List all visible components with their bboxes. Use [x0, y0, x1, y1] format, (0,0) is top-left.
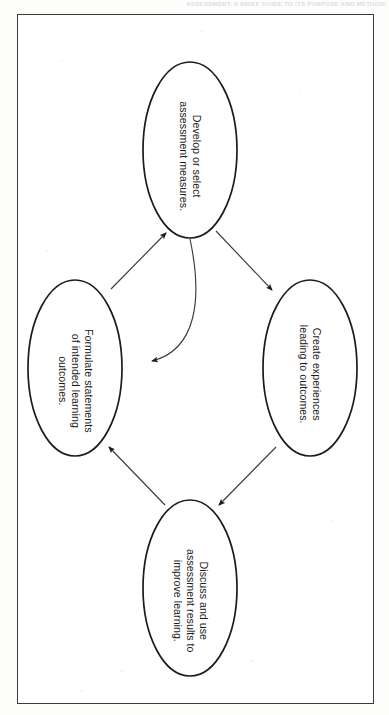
scan-speckle	[45, 250, 49, 252]
scan-speckle	[200, 30, 203, 32]
scanned-page: ASSESSMENT: A BRIEF GUIDE TO ITS PURPOSE…	[0, 0, 389, 715]
node-label-discuss-assessment-results: Discuss and use assessment results to im…	[170, 526, 210, 676]
scan-speckle	[120, 670, 125, 672]
scan-speckle	[250, 660, 254, 662]
edge-outcomes-to-measures	[111, 233, 166, 289]
edge-experiences-to-discuss	[219, 447, 276, 505]
scan-speckle	[330, 520, 333, 522]
edge-measures-to-experiences	[216, 231, 272, 290]
node-label-develop-assessment-measures: Develop or select assessment measures.	[177, 81, 203, 231]
node-label-formulate-learning-outcomes: Formulate statements of intended learnin…	[55, 306, 95, 456]
scan-speckle	[80, 690, 83, 692]
diagram-edges	[109, 231, 276, 505]
edge-measures-back-to-outcomes	[152, 239, 196, 361]
scan-speckle	[60, 60, 63, 62]
edge-discuss-to-outcomes	[109, 447, 165, 505]
scan-speckle	[300, 90, 302, 92]
node-label-create-experiences: Create experiences leading to outcomes.	[297, 299, 323, 449]
